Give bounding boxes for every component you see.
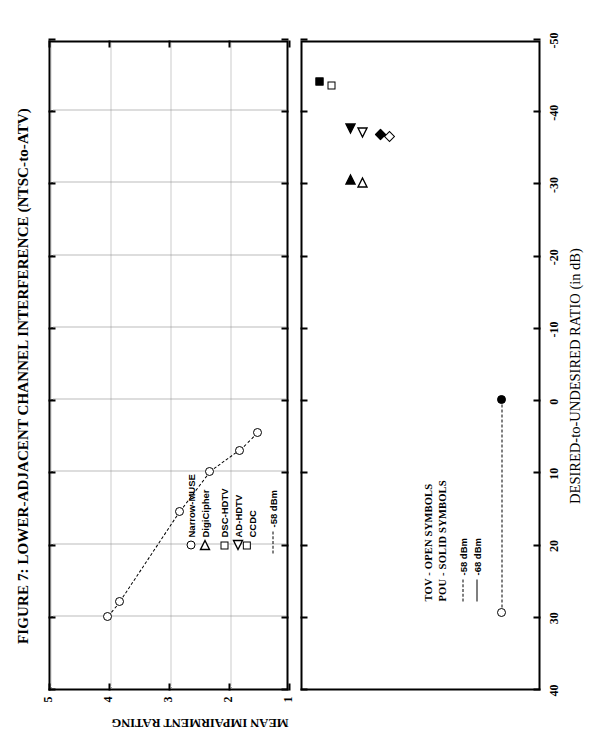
y-tick-label: 5 <box>41 696 56 710</box>
x-tick <box>533 616 540 618</box>
x-tick <box>281 182 288 184</box>
y-tick <box>288 683 290 690</box>
legend-note-label: TOV - OPEN SYMBOLS <box>422 483 433 601</box>
y-axis-title: MEAN IMPAIRMENT RATING <box>111 714 288 729</box>
marker-circle-open <box>497 608 506 617</box>
x-tick-label: -30 <box>546 176 561 192</box>
legend-item: DSC-HDTV <box>217 474 230 553</box>
legend-marker <box>199 537 210 553</box>
x-tick <box>533 544 540 546</box>
marker-circle-open <box>253 427 262 436</box>
legend-note: POU - SOLID SYMBOLS <box>434 480 448 601</box>
legend-label: DigiCipher <box>199 489 210 537</box>
x-tick-label: -20 <box>546 249 561 265</box>
y-tick <box>168 683 170 690</box>
gridline-vertical <box>50 398 286 399</box>
x-tick <box>300 182 307 184</box>
y-tick <box>228 683 230 690</box>
legend-marker <box>248 537 256 553</box>
x-tick-label: -50 <box>546 32 561 48</box>
x-tick <box>281 327 288 329</box>
gridline-vertical <box>50 109 286 110</box>
x-tick <box>300 544 307 546</box>
legend-note-label: POU - SOLID SYMBOLS <box>436 480 447 601</box>
x-tick <box>533 471 540 473</box>
x-tick <box>533 38 540 40</box>
y-tick <box>108 683 110 690</box>
legend-spacer <box>212 474 217 553</box>
figure-canvas: FIGURE 7: LOWER-ADJACENT CHANNEL INTERFE… <box>0 0 602 751</box>
top-chart-panel <box>48 40 288 690</box>
legend-line-sample <box>476 579 477 601</box>
x-tick <box>48 399 55 401</box>
legend-label: CCDC <box>246 510 257 537</box>
connector-line <box>501 399 502 612</box>
legend-marker <box>232 537 243 553</box>
x-tick <box>300 255 307 257</box>
legend-label: Narrow-MUSE <box>185 474 196 537</box>
x-tick <box>48 255 55 257</box>
x-tick-label: 0 <box>546 398 561 404</box>
x-tick <box>533 327 540 329</box>
x-tick <box>533 182 540 184</box>
x-tick-label: 20 <box>546 540 561 552</box>
marker-square-solid <box>315 77 323 85</box>
x-tick <box>281 544 288 546</box>
marker-triangle-right-solid <box>345 173 356 184</box>
x-tick <box>533 110 540 112</box>
x-tick <box>48 110 55 112</box>
marker-circle-open <box>186 541 195 550</box>
bottom-legend: TOV - OPEN SYMBOLSPOU - SOLID SYMBOLS-58… <box>420 480 484 601</box>
gridline-vertical <box>50 254 286 255</box>
top-plot-area <box>50 42 286 688</box>
gridline-horizontal <box>230 42 231 688</box>
gridline-vertical <box>50 181 286 182</box>
legend-item: Narrow-MUSE <box>184 474 197 553</box>
legend-item: -58 dBm <box>456 480 469 601</box>
marker-circle-solid <box>497 395 506 404</box>
gridline-vertical <box>50 326 286 327</box>
y-tick <box>48 40 50 47</box>
x-tick <box>48 327 55 329</box>
x-tick <box>48 616 55 618</box>
marker-triangle-right-open <box>199 540 210 551</box>
marker-square-open <box>220 541 228 549</box>
x-tick <box>533 688 540 690</box>
legend-marker <box>186 537 195 553</box>
marker-diamond-open <box>246 539 257 550</box>
gridline-vertical <box>50 615 286 616</box>
x-tick <box>48 471 55 473</box>
gridline-horizontal <box>170 42 171 688</box>
x-tick <box>281 255 288 257</box>
y-tick-label: 3 <box>161 696 176 710</box>
x-tick <box>300 616 307 618</box>
legend-item: -58 dBm <box>266 474 279 553</box>
x-tick-label: 40 <box>546 684 561 696</box>
x-tick <box>533 399 540 401</box>
x-tick <box>281 688 288 690</box>
y-tick-label: 2 <box>221 696 236 710</box>
x-tick <box>300 38 307 40</box>
y-tick <box>228 40 230 47</box>
marker-triangle-left-open <box>357 126 368 137</box>
x-tick <box>300 327 307 329</box>
x-tick <box>48 544 55 546</box>
marker-triangle-left-solid <box>345 123 356 134</box>
x-tick <box>281 616 288 618</box>
legend-line-sample <box>272 531 273 553</box>
legend-label: DSC-HDTV <box>218 488 229 537</box>
legend-spacer <box>448 480 456 601</box>
x-tick <box>300 688 307 690</box>
x-tick <box>533 255 540 257</box>
gridline-horizontal <box>110 42 111 688</box>
y-tick-label: 1 <box>281 696 296 710</box>
x-tick <box>300 110 307 112</box>
figure-page: FIGURE 7: LOWER-ADJACENT CHANNEL INTERFE… <box>0 0 602 751</box>
marker-triangle-left-open <box>232 540 243 551</box>
x-tick <box>300 399 307 401</box>
x-tick <box>281 110 288 112</box>
x-tick-label: -10 <box>546 321 561 337</box>
marker-triangle-right-open <box>357 177 368 188</box>
x-tick <box>281 399 288 401</box>
marker-circle-open <box>235 445 244 454</box>
